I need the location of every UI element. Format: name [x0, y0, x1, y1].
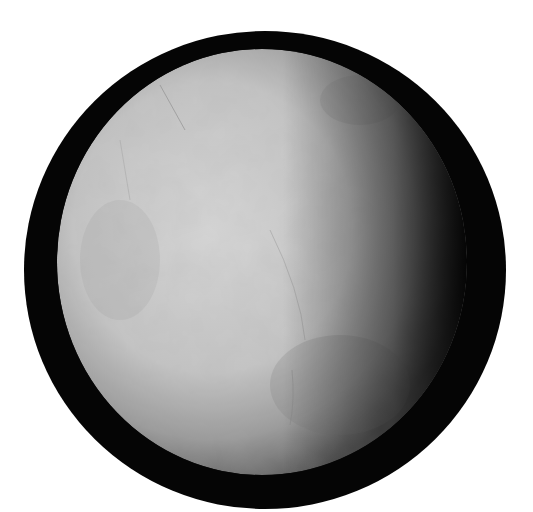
moon-image — [0, 0, 533, 512]
